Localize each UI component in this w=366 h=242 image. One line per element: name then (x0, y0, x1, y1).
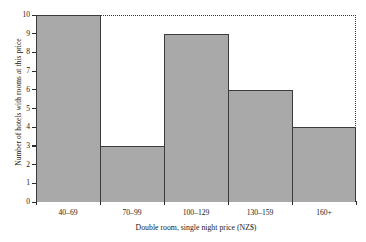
y-tick-label: 8 (26, 47, 30, 57)
x-tick-label-130–159: 130–159 (228, 207, 292, 218)
x-axis-title: Double room, single night price (NZ$) (36, 222, 356, 234)
bar-70–99 (100, 146, 165, 202)
y-tick-label: 4 (26, 122, 30, 132)
y-tick-label: 0 (26, 197, 30, 207)
x-tick-mark (356, 201, 357, 205)
y-tick-label: 5 (26, 104, 30, 114)
y-tick-4: 4 (0, 122, 36, 132)
bar-40–69 (36, 15, 101, 202)
x-tick-label-100–129: 100–129 (164, 207, 228, 218)
x-tick-mark (36, 201, 37, 205)
bars-container (36, 15, 356, 202)
y-tick-6: 6 (0, 85, 36, 95)
x-tick-mark (228, 201, 229, 205)
y-tick-5: 5 (0, 104, 36, 114)
y-tick-9: 9 (0, 29, 36, 39)
y-tick-label: 6 (26, 85, 30, 95)
y-tick-10: 10 (0, 10, 36, 20)
bar-100–129 (164, 34, 229, 202)
y-tick-label: 2 (26, 160, 30, 170)
x-tick-mark (292, 201, 293, 205)
y-tick-2: 2 (0, 160, 36, 170)
x-tick-mark (100, 201, 101, 205)
y-tick-0: 0 (0, 197, 36, 207)
x-tick-label-70–99: 70–99 (100, 207, 164, 218)
y-tick-label: 3 (26, 141, 30, 151)
bar-130–159 (228, 90, 293, 202)
y-tick-label: 7 (26, 66, 30, 76)
y-tick-1: 1 (0, 178, 36, 188)
histogram-figure: Number of hotels with rooms at this pric… (0, 0, 366, 242)
y-tick-label: 10 (22, 10, 30, 20)
y-tick-7: 7 (0, 66, 36, 76)
bar-160+ (292, 127, 356, 202)
x-tick-label-40–69: 40–69 (36, 207, 100, 218)
y-tick-label: 1 (26, 178, 30, 188)
x-tick-label-160+: 160+ (292, 207, 356, 218)
y-tick-8: 8 (0, 47, 36, 57)
y-tick-3: 3 (0, 141, 36, 151)
y-tick-label: 9 (26, 29, 30, 39)
x-tick-mark (164, 201, 165, 205)
